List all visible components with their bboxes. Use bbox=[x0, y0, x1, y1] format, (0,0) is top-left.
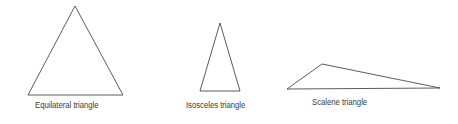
scalene-triangle-label: Scalene triangle bbox=[312, 97, 367, 107]
scalene-triangle bbox=[287, 64, 440, 89]
isosceles-triangle bbox=[200, 23, 240, 91]
triangle-figure: Equilateral triangle Isosceles triangle … bbox=[0, 0, 458, 124]
equilateral-triangle-label: Equilateral triangle bbox=[35, 100, 99, 110]
isosceles-triangle-label: Isosceles triangle bbox=[186, 100, 245, 110]
equilateral-triangle bbox=[28, 6, 123, 95]
